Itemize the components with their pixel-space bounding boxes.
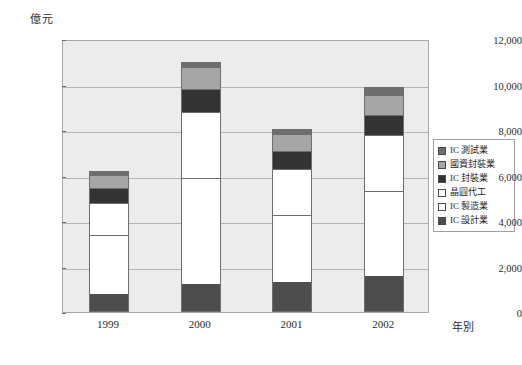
bar-segment <box>365 115 403 135</box>
plot-inner <box>63 41 428 312</box>
stacked-bar-chart: 億元 年別 IC 測試業國資封裝業IC 封裝業晶圓代工IC 製造業IC 設計業 … <box>0 0 522 365</box>
legend-item[interactable]: 晶圓代工 <box>438 186 511 199</box>
legend-item[interactable]: IC 測試業 <box>438 144 511 157</box>
legend-item-label: IC 製造業 <box>450 202 488 211</box>
legend-item-label: 晶圓代工 <box>450 188 486 197</box>
legend-item[interactable]: IC 製造業 <box>438 200 511 213</box>
legend-swatch-icon <box>438 203 446 211</box>
bar-segment <box>365 135 403 191</box>
bar-segment <box>182 284 220 311</box>
y-axis-tick-label: 6,000 <box>464 171 522 182</box>
legend-item-label: IC 測試業 <box>450 146 488 155</box>
x-axis-tick-label: 2000 <box>165 318 235 330</box>
x-axis-tick-label: 1999 <box>73 318 143 330</box>
y-axis-tick-mark <box>62 313 66 314</box>
legend-swatch-icon <box>438 161 446 169</box>
x-axis-title: 年別 <box>452 318 474 334</box>
bar-segment <box>182 67 220 88</box>
legend-swatch-icon <box>438 147 446 155</box>
x-axis-tick-label: 2001 <box>256 318 326 330</box>
bar-segment <box>273 134 311 151</box>
y-axis-tick-label: 2,000 <box>464 262 522 273</box>
bar-segment <box>90 203 128 234</box>
bar-segment <box>273 215 311 283</box>
y-axis-tick-mark <box>62 177 66 178</box>
y-axis-tick-mark <box>62 268 66 269</box>
y-axis-unit-label: 億元 <box>30 10 53 26</box>
bar-segment <box>182 112 220 177</box>
bar-segment <box>90 188 128 204</box>
plot-area <box>62 40 429 313</box>
legend-swatch-icon <box>438 175 446 183</box>
bar-segment <box>273 151 311 168</box>
y-axis-tick-label: 4,000 <box>464 217 522 228</box>
y-axis-tick-label: 12,000 <box>464 35 522 46</box>
y-axis-tick-label: 0 <box>464 308 522 319</box>
bar-segment <box>90 294 128 311</box>
y-axis-tick-label: 8,000 <box>464 126 522 137</box>
y-axis-tick-mark <box>62 131 66 132</box>
bar-segment <box>90 235 128 294</box>
bar-segment <box>182 178 220 285</box>
bar-segment <box>365 88 403 96</box>
bar-segment <box>365 191 403 276</box>
y-axis-tick-mark <box>62 86 66 87</box>
bar-segment <box>273 169 311 215</box>
legend-swatch-icon <box>438 217 446 225</box>
bar-segment <box>90 175 128 187</box>
legend-item-label: 國資封裝業 <box>450 160 495 169</box>
bar-segment <box>365 276 403 311</box>
x-axis-tick-label: 2002 <box>348 318 418 330</box>
bar-2002 <box>364 87 404 312</box>
y-axis-tick-mark <box>62 40 66 41</box>
bar-1999 <box>89 171 129 312</box>
legend-item[interactable]: 國資封裝業 <box>438 158 511 171</box>
y-axis <box>0 40 60 313</box>
y-axis-tick-label: 10,000 <box>464 80 522 91</box>
bar-segment <box>273 282 311 311</box>
bar-2001 <box>272 129 312 312</box>
bar-segment <box>365 95 403 114</box>
y-axis-tick-mark <box>62 222 66 223</box>
legend-swatch-icon <box>438 189 446 197</box>
bar-segment <box>182 89 220 113</box>
bar-2000 <box>181 62 221 312</box>
